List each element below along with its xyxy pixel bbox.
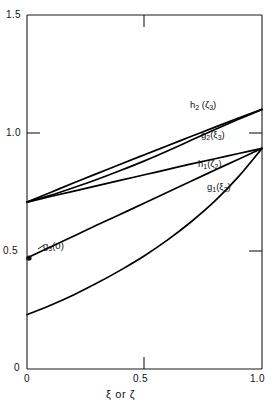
chart-figure: 1.5 1.0 0.5 0 0 0.5 1.0 ξ or ζ h2 (ζ3) g…	[0, 0, 276, 409]
curve-g1	[27, 148, 262, 314]
y-tick-label-0_5: 0.5	[3, 245, 18, 256]
curve-label-g2: g2(ξ3)	[201, 129, 225, 141]
y-tick-label-1_0: 1.0	[6, 127, 21, 138]
y-tick-label-0: 0	[14, 362, 20, 373]
g3-zero-marker	[26, 245, 44, 261]
curve-label-h2: h2 (ζ3)	[190, 99, 216, 111]
curve-label-g3-zero: g3(0)	[43, 240, 64, 252]
curve-group	[27, 109, 262, 314]
x-axis-title: ξ or ζ	[106, 388, 135, 400]
x-tick-label-0: 0	[24, 373, 30, 384]
x-tick-label-1_0: 1.0	[250, 373, 265, 384]
curve-h1	[27, 148, 262, 202]
curve-label-h1: h1(ζ2)	[198, 158, 222, 170]
y-tick-label-1_5: 1.5	[6, 9, 21, 20]
plot-canvas	[0, 0, 276, 409]
curve-label-g1: g1(ξ2)	[207, 181, 231, 193]
x-tick-label-0_5: 0.5	[133, 373, 148, 384]
